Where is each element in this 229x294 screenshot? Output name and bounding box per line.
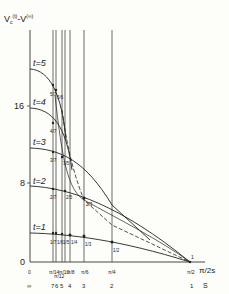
solid-envelope xyxy=(55,95,190,262)
svg-text:4: 4 xyxy=(68,283,72,289)
svg-text:5/6: 5/6 xyxy=(57,95,64,100)
y-tick-0: 0 xyxy=(20,257,25,267)
svg-text:π/4: π/4 xyxy=(108,269,116,275)
svg-text:2/5: 2/5 xyxy=(66,195,73,200)
svg-text:5: 5 xyxy=(60,283,64,289)
label-t2: t=2 xyxy=(33,176,46,186)
svg-text:4/7: 4/7 xyxy=(50,129,57,134)
curve-t1 xyxy=(30,233,190,262)
end-label: 1 xyxy=(191,254,194,260)
svg-text:0: 0 xyxy=(28,269,31,275)
svg-text:π/2: π/2 xyxy=(187,269,195,275)
label-t3: t=3 xyxy=(33,137,46,147)
x-ticks-s: ∞ 7 6 5 4 3 2 1 xyxy=(27,283,194,289)
svg-text:1/2: 1/2 xyxy=(113,248,120,253)
svg-text:1: 1 xyxy=(190,283,194,289)
x-ticks-angle: 0 π/14 π/12 π/10 π/8 π/6 π/4 π/2 xyxy=(28,269,195,279)
svg-text:2/7: 2/7 xyxy=(50,195,57,200)
y-axis-title: Vc(t)-V(∞) xyxy=(4,13,33,25)
dashed-envelope xyxy=(62,110,190,262)
s-axis-title: S xyxy=(203,282,208,289)
fraction-labels: 1/71/61/5 1/41/31/2 2/72/52/3 3/73/5 4/7… xyxy=(50,92,120,253)
label-t1: t=1 xyxy=(33,222,46,232)
svg-text:1/3: 1/3 xyxy=(85,242,92,247)
svg-text:1/5: 1/5 xyxy=(63,240,70,245)
diagram: Vc(t)-V(∞) 0 8 16 t=5 t=4 xyxy=(0,0,229,294)
svg-text:3/5: 3/5 xyxy=(63,161,70,166)
y-tick-8: 8 xyxy=(20,178,25,188)
svg-text:2: 2 xyxy=(110,283,114,289)
svg-text:3: 3 xyxy=(82,283,86,289)
svg-text:3/7: 3/7 xyxy=(50,158,57,163)
svg-text:6: 6 xyxy=(55,283,59,289)
svg-text:2/3: 2/3 xyxy=(86,202,93,207)
svg-text:π/8: π/8 xyxy=(67,269,75,275)
y-tick-16: 16 xyxy=(14,101,24,111)
label-t5: t=5 xyxy=(33,58,47,68)
svg-text:1/7: 1/7 xyxy=(50,240,57,245)
label-t4: t=4 xyxy=(33,97,46,107)
x-axis-title: π/2s xyxy=(199,266,215,275)
svg-text:π/6: π/6 xyxy=(81,269,89,275)
svg-text:1/4: 1/4 xyxy=(71,240,78,245)
svg-text:5/7: 5/7 xyxy=(50,92,57,97)
svg-text:∞: ∞ xyxy=(27,283,31,289)
